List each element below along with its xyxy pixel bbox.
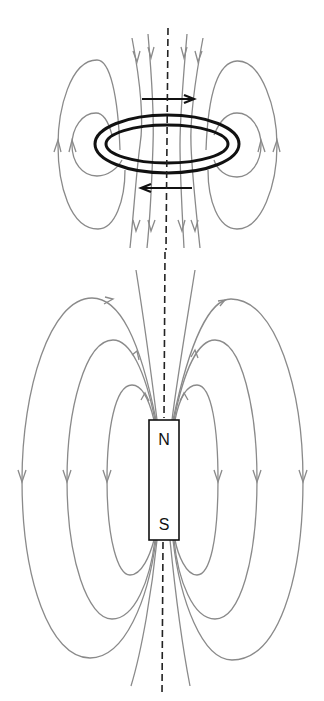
south-pole-label: S xyxy=(159,516,170,533)
symmetry-axis-lower xyxy=(164,252,165,418)
loop-field-line-center-right-inner xyxy=(180,34,187,248)
magnet-field-line-top-right-open xyxy=(172,270,195,420)
loop-field-line-center-left-outer xyxy=(130,38,142,248)
magnet-field-line-bottom-right-open xyxy=(170,540,190,686)
arrow-down-icon xyxy=(191,220,198,231)
arrow-down-icon xyxy=(133,51,140,62)
magnet-field-line-right-middle xyxy=(174,340,257,619)
magnet-field-line-left-inner xyxy=(107,385,154,575)
north-pole-label: N xyxy=(158,431,170,448)
arrow-down-icon xyxy=(133,220,140,231)
arrow-up-icon xyxy=(141,393,149,401)
arrow-down-icon xyxy=(195,51,202,62)
arrow-down-icon xyxy=(181,47,187,58)
loop-field-line-right-outer xyxy=(206,61,277,229)
loop-field-line-center-right-outer xyxy=(191,38,203,248)
arrow-up-icon xyxy=(180,393,188,401)
loop-field-line-center-left-inner xyxy=(147,34,153,248)
loop-field-line-left-outer xyxy=(58,60,125,229)
magnet-field-line-right-inner xyxy=(175,385,218,575)
magnet-field-line-bottom-left-open xyxy=(131,540,157,686)
arrow-down-icon xyxy=(148,47,154,58)
loop-field-line-left-inner xyxy=(72,113,122,176)
symmetry-axis-bottom xyxy=(162,542,163,695)
magnet-field-line-left-middle xyxy=(67,340,155,619)
arrow-down-icon xyxy=(178,220,185,231)
symmetry-axis xyxy=(166,28,168,250)
magnetic-field-diagram: N S xyxy=(0,0,324,701)
